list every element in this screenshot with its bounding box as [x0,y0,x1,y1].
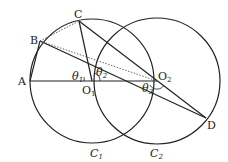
label-c2: C2 [150,147,163,161]
segment-a-b [30,41,40,81]
label-c1: C1 [90,147,103,161]
label-b: B [30,34,38,47]
dashed-b-c [40,21,79,41]
label-o2: O2 [158,70,172,84]
label-theta1: θ1 [72,70,83,84]
label-theta2: θ2 [96,66,108,80]
label-c: C [74,8,82,21]
geometry-diagram: A B C O1 O2 D θ1 θ2 θ3 C1 C2 [0,0,228,162]
label-theta3: θ3 [142,82,154,96]
label-a: A [17,75,27,88]
segment-b-d [40,41,206,118]
label-o1: O1 [82,84,96,98]
label-d: D [207,119,216,132]
